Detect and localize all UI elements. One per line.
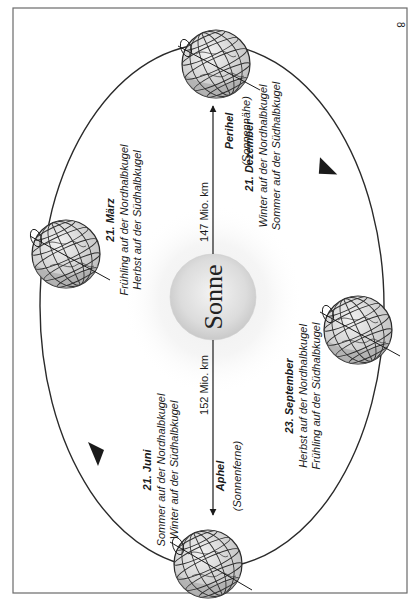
earth-globe-september: [320, 289, 400, 371]
earth-globe-december: [178, 23, 260, 105]
sun-label: Sonne: [199, 265, 228, 330]
season-line-2: Herbst auf der Südhalbkugel: [131, 150, 143, 290]
aphel-distance-label: 152 Mio. km: [198, 355, 210, 415]
season-date: 23. September: [283, 358, 295, 435]
season-line-1: Sommer auf der Nordhalbkugel: [155, 393, 167, 546]
season-line-1: Frühling auf der Nordhalbkugel: [118, 144, 130, 296]
season-date: 21. Juni: [141, 449, 153, 492]
perihel-distance-label: 147 Mio. km: [198, 182, 210, 242]
season-line-1: Herbst auf der Nordhalbkugel: [297, 324, 309, 468]
aphel-subtitle: (Sonnenferne): [231, 441, 243, 512]
aphel-title: Aphel: [214, 460, 226, 493]
perihel-title: Perihel: [223, 112, 235, 150]
season-label-march: 21. März Frühling auf der Nordhalbkugel …: [104, 144, 143, 296]
season-line-2: Frühling auf der Südhalbkugel: [310, 322, 322, 469]
season-label-june: 21. Juni Sommer auf der Nordhalbkugel Wi…: [141, 393, 180, 546]
season-date: 21. März: [104, 198, 116, 243]
orbit-diagram: 8 Sonne 147 Mio. km 152 Mio. km Perihel …: [0, 0, 413, 610]
orbit-direction-arrow-right: [316, 155, 337, 178]
season-date: 21. Dezember: [243, 120, 255, 193]
orbit-direction-arrow-left: [88, 442, 104, 466]
page-number: 8: [395, 22, 406, 28]
season-line-2: Winter auf der Südhalbkugel: [168, 400, 180, 539]
season-line-1: Winter auf der Nordhalbkugel: [257, 84, 269, 228]
season-line-2: Sommer auf der Südhalbkugel: [270, 81, 282, 230]
